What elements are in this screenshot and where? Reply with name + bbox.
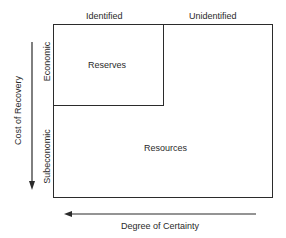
horizontal-arrow-left-icon [64, 211, 256, 217]
axis-arrows [0, 0, 286, 238]
vertical-arrow-down-icon [29, 42, 35, 190]
axis-label-degree-of-certainty: Degree of Certainty [121, 222, 199, 231]
